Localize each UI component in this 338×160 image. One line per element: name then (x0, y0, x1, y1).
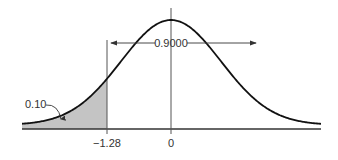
tail-area-label: 0.10 (25, 98, 46, 110)
tick-label-z: −1.28 (93, 137, 121, 149)
right-area-label: 0.9000 (154, 37, 188, 49)
normal-curve-chart: 0.9000 0.10 −1.28 0 (0, 0, 338, 160)
tick-label-zero: 0 (168, 137, 174, 149)
